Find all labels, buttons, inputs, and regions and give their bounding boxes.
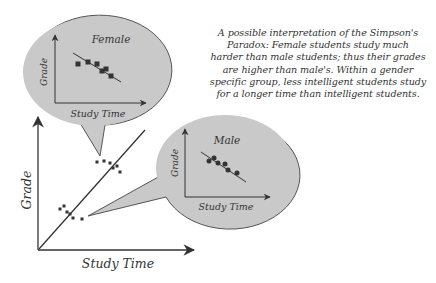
main-y-axis-label: Grade bbox=[19, 171, 34, 210]
caption-line: A possible interpretation of the Simpson… bbox=[205, 27, 431, 39]
data-point bbox=[96, 161, 99, 164]
data-point bbox=[109, 74, 114, 79]
male-label: Male bbox=[213, 134, 241, 146]
main-regression-line bbox=[39, 130, 145, 249]
female-label: Female bbox=[91, 33, 131, 45]
caption-line: specific group, less intelligent student… bbox=[205, 76, 431, 88]
data-point bbox=[76, 62, 81, 67]
data-point bbox=[223, 162, 228, 167]
male-y-axis-label: Grade bbox=[170, 149, 180, 177]
data-point bbox=[109, 162, 112, 165]
data-point bbox=[226, 168, 231, 173]
data-point bbox=[95, 62, 100, 67]
female-bubble: Female Study Time Grade bbox=[23, 15, 172, 156]
data-point bbox=[235, 171, 240, 176]
caption-line: are higher than male's. Within a gender bbox=[205, 64, 431, 76]
data-point bbox=[72, 217, 75, 220]
female-y-axis-label: Grade bbox=[39, 58, 49, 86]
data-point bbox=[207, 159, 212, 164]
main-x-axis-label: Study Time bbox=[82, 256, 154, 271]
data-point bbox=[103, 160, 106, 163]
data-point bbox=[212, 156, 217, 161]
data-point bbox=[104, 67, 109, 72]
data-point bbox=[59, 208, 62, 211]
caption-line: harder than male students; thus their gr… bbox=[205, 51, 431, 63]
data-point bbox=[63, 205, 66, 208]
data-point bbox=[119, 171, 122, 174]
data-point bbox=[66, 211, 69, 214]
data-point bbox=[69, 213, 72, 216]
data-point bbox=[86, 60, 91, 65]
data-point bbox=[81, 218, 84, 221]
caption-line: Paradox: Female students study much bbox=[205, 39, 431, 51]
main-scatter-points bbox=[59, 160, 122, 221]
data-point bbox=[112, 167, 115, 170]
male-x-axis-label: Study Time bbox=[199, 201, 254, 212]
simpsons-paradox-diagram: Study Time Grade Female Study Time Grade… bbox=[0, 0, 436, 283]
data-point bbox=[216, 161, 221, 166]
data-point bbox=[116, 165, 119, 168]
female-x-axis-label: Study Time bbox=[71, 108, 126, 119]
caption-line: for a longer time than intelligent stude… bbox=[205, 88, 431, 100]
explanation-caption: A possible interpretation of the Simpson… bbox=[205, 27, 431, 100]
